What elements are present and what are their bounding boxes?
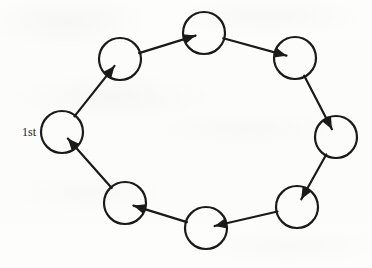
edge-lower-right-to-bottom (215, 212, 278, 229)
edge-right-to-lower-right (301, 154, 326, 199)
edge-1st-to-upper-left (74, 66, 114, 116)
node-top[interactable] (183, 12, 225, 54)
node-bottom[interactable] (185, 207, 227, 249)
edge-upper-right-to-right (304, 76, 332, 129)
edge-lower-left-to-1st (68, 139, 112, 188)
edge-bottom-to-lower-left (133, 204, 186, 222)
node-lower-left[interactable] (104, 182, 146, 224)
ring-diagram-figure: 1st (0, 0, 372, 268)
node-1st-label: 1st (22, 125, 37, 139)
edges-layer (68, 34, 332, 228)
node-right[interactable] (315, 116, 357, 158)
nodes-layer (41, 12, 357, 249)
node-upper-left[interactable] (99, 38, 141, 80)
node-1st[interactable] (41, 111, 83, 153)
node-upper-right[interactable] (274, 37, 316, 79)
node-lower-right[interactable] (276, 186, 318, 228)
labels-layer: 1st (22, 125, 37, 139)
ring-diagram-svg: 1st (0, 0, 372, 268)
